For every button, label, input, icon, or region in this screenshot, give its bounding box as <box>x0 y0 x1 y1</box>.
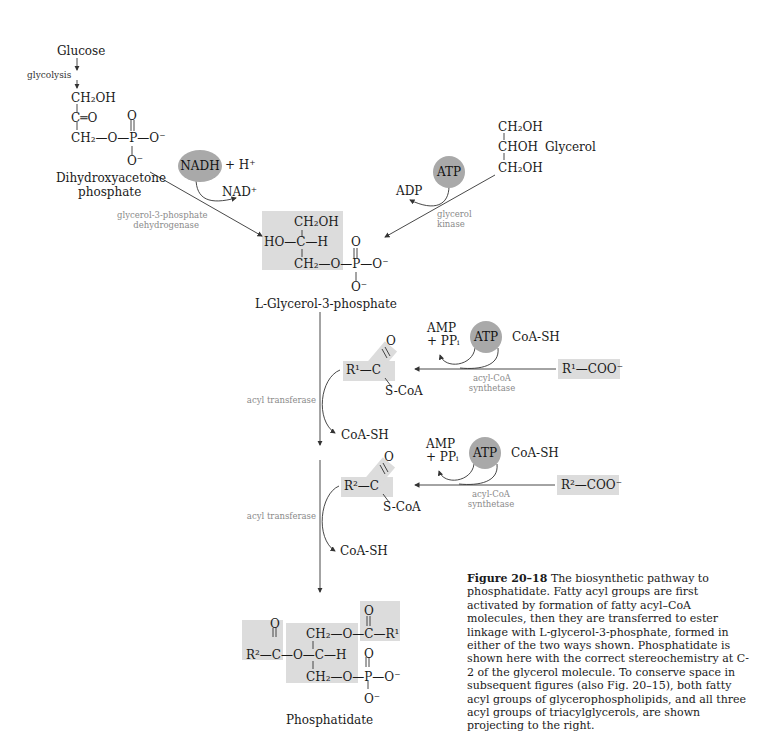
coa-sh-input-1: CoA-SH <box>512 330 560 344</box>
h-plus-label: + H⁺ <box>225 158 256 172</box>
coa-sh-input-2: CoA-SH <box>511 446 559 460</box>
phosphatidate-top-chain: CH₂—O—C—R¹ <box>306 627 399 641</box>
acyl-coa-synthetase-1-line2: synthetase <box>462 383 522 394</box>
acyl-coa-synthetase-2-line2: synthetase <box>461 499 521 510</box>
phosphatidate-r1-o: O <box>364 604 374 618</box>
g3p-ch2oh: CH₂OH <box>294 215 339 229</box>
dhap-name-1: Dihydroxyacetone <box>56 171 166 185</box>
r1-coo-substrate: R¹—COO⁻ <box>562 362 623 376</box>
acyl1-coa-r-c: R¹—C <box>346 363 381 377</box>
r2-coo-substrate: R²—COO⁻ <box>561 478 622 492</box>
phosphatidate-r2-o: O <box>270 617 280 631</box>
glycerol-name: Glycerol <box>545 140 596 154</box>
glycerol-ch2oh-bottom: CH₂OH <box>498 161 543 175</box>
dhap-p-bottom-oxygen: O⁻ <box>127 154 143 168</box>
acyl1-coa-scoa: S-CoA <box>385 384 423 398</box>
g3p-dehydrogenase-enzyme-2: dehydrogenase <box>117 220 199 231</box>
acyl-transferase-2-label: acyl transferase <box>240 511 316 522</box>
glucose-label: Glucose <box>57 44 105 58</box>
acyl2-coa-o: O <box>384 450 394 464</box>
nadh-cofactor-circle: NADH <box>178 150 222 182</box>
atp-cofactor-circle-synthetase-1: ATP <box>470 321 502 353</box>
g3p-ho-c-h: HO—C—H <box>264 235 328 249</box>
phosphatidate-p-top-o: O <box>364 647 374 661</box>
atp-cofactor-circle-synthetase-2: ATP <box>469 437 501 469</box>
amp-label-2: AMP <box>426 437 455 451</box>
glycerol-kinase-enzyme-2: kinase <box>437 219 477 230</box>
figure-number: Figure 20–18 <box>467 572 547 585</box>
figure-caption-text: The biosynthetic pathway to phosphatidat… <box>467 572 749 732</box>
acyl2-coa-r-c: R²—C <box>344 479 379 493</box>
acyl2-coa-scoa: S-CoA <box>383 500 421 514</box>
coa-sh-released-2: CoA-SH <box>340 544 388 558</box>
glycerol-chohh: CHOH <box>498 140 538 154</box>
nadh-label: NADH <box>180 159 219 173</box>
g3p-name: L-Glycerol-3-phosphate <box>255 297 397 311</box>
dhap-phosphate-chain: CH₂—O—P—O⁻ <box>71 131 166 145</box>
acyl1-coa-o: O <box>386 334 396 348</box>
amp-label-1: AMP <box>427 321 456 335</box>
phosphatidate-p-bottom-o: O⁻ <box>364 692 380 706</box>
nad-plus-label: NAD⁺ <box>222 185 257 199</box>
atp-label: ATP <box>474 330 498 344</box>
coa-sh-released-1: CoA-SH <box>341 428 389 442</box>
phosphatidate-name: Phosphatidate <box>286 713 373 727</box>
atp-label: ATP <box>473 446 497 460</box>
ppi-label-2: + PPᵢ <box>426 450 458 464</box>
glycerol-ch2oh-top: CH₂OH <box>498 120 543 134</box>
atp-label: ATP <box>437 165 461 179</box>
g3p-p-top-oxygen: O <box>351 235 361 249</box>
acyl-transferase-1-label: acyl transferase <box>240 395 316 406</box>
dhap-carbonyl: C═O <box>71 111 97 125</box>
phosphatidate-middle-chain: R²—C—O—C—H <box>246 648 347 662</box>
glycolysis-label: glycolysis <box>27 70 71 81</box>
phosphatidate-bottom-chain: CH₂—O—P—O⁻ <box>306 670 401 684</box>
g3p-phosphate-chain: CH₂—O—P—O⁻ <box>294 257 389 271</box>
figure-caption: Figure 20–18 The biosynthetic pathway to… <box>467 572 749 733</box>
dhap-ch2oh: CH₂OH <box>71 91 116 105</box>
ppi-label-1: + PPᵢ <box>427 334 459 348</box>
adp-label: ADP <box>396 184 422 198</box>
g3p-p-bottom-oxygen: O⁻ <box>351 280 367 294</box>
dhap-p-top-oxygen: O <box>127 109 137 123</box>
dhap-name-2: phosphate <box>78 185 141 199</box>
atp-cofactor-circle-glycerol-kinase: ATP <box>433 156 465 188</box>
